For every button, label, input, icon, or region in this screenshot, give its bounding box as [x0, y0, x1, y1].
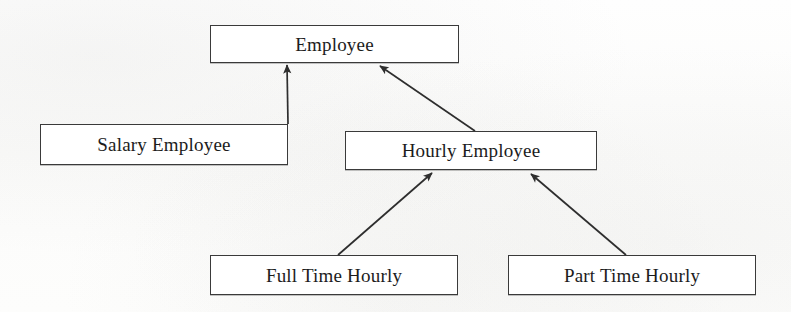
class-box-salary-employee[interactable]: Salary Employee [40, 124, 288, 165]
edge-parttime-to-hourly [531, 174, 626, 255]
class-box-full-time-hourly-label: Full Time Hourly [266, 266, 402, 285]
class-box-part-time-hourly-label: Part Time Hourly [564, 266, 700, 285]
class-box-salary-employee-label: Salary Employee [97, 135, 230, 154]
class-box-employee-label: Employee [295, 35, 374, 54]
class-box-full-time-hourly[interactable]: Full Time Hourly [210, 255, 458, 295]
edge-salary-to-employee [287, 65, 288, 124]
class-box-part-time-hourly[interactable]: Part Time Hourly [508, 255, 756, 295]
diagram-canvas: Employee Salary Employee Hourly Employee… [0, 0, 791, 312]
class-box-hourly-employee-label: Hourly Employee [402, 141, 541, 160]
class-box-employee[interactable]: Employee [210, 25, 459, 63]
class-box-hourly-employee[interactable]: Hourly Employee [345, 131, 597, 170]
edge-hourly-to-employee [380, 66, 475, 131]
edge-fulltime-to-hourly [338, 173, 432, 255]
